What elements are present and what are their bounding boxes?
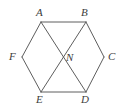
vertex-label-f: F [9, 51, 16, 62]
edge-FA [22, 22, 41, 57]
vertex-label-n: N [66, 52, 73, 63]
edge-BC [86, 22, 104, 57]
vertex-label-a: A [36, 7, 43, 18]
vertex-label-d: D [81, 94, 89, 105]
vertex-label-c: C [108, 51, 115, 62]
vertex-label-e: E [36, 94, 43, 105]
edge-EF [22, 57, 41, 92]
edge-CD [86, 57, 104, 92]
edge-group [22, 22, 104, 92]
vertex-label-b: B [81, 7, 88, 18]
hexagon-figure: ABCDEFN [0, 0, 128, 112]
